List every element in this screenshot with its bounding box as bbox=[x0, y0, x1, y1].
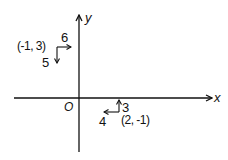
x-axis-label: x bbox=[214, 91, 221, 104]
horizontal-component-label-1: 6 bbox=[61, 31, 68, 44]
y-axis-label: y bbox=[85, 11, 92, 24]
axes-graphic bbox=[0, 0, 228, 160]
horizontal-component-label-2: 4 bbox=[99, 115, 106, 128]
vertical-component-label-1: 5 bbox=[42, 56, 49, 69]
origin-label: O bbox=[64, 101, 73, 113]
vector-group-2 bbox=[104, 100, 119, 112]
vector-group-1 bbox=[57, 47, 71, 63]
coordinate-diagram: y x O (-1, 3) 6 5 3 4 (2, -1) bbox=[0, 0, 228, 160]
point-label-2: (2, -1) bbox=[121, 114, 150, 126]
point-label-1: (-1, 3) bbox=[17, 40, 46, 52]
